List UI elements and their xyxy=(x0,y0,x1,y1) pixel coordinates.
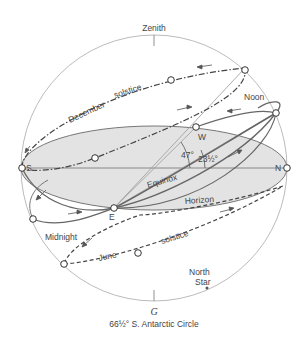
north-star-label-line1: North xyxy=(189,267,210,277)
december-noon-marker xyxy=(242,67,249,74)
south-label: S xyxy=(26,163,32,173)
june-midnight-marker xyxy=(61,261,68,268)
equinox-noon-marker xyxy=(273,110,280,117)
east-label: E xyxy=(109,212,115,222)
december-label: December xyxy=(67,99,107,125)
zenith-label: Zenith xyxy=(142,23,166,33)
noon-label: Noon xyxy=(244,92,265,102)
west-label: W xyxy=(198,132,206,142)
angle-47-label: 47° xyxy=(181,150,194,160)
december-mid-marker xyxy=(168,77,175,84)
celestial-sphere-diagram: Zenith Noon Midnight S N E W Equinox Hor… xyxy=(0,0,305,348)
figure-letter: G xyxy=(150,306,157,317)
west-point-marker xyxy=(193,124,200,131)
equinox-midnight-marker xyxy=(30,216,37,223)
december-low-marker xyxy=(92,155,99,162)
figure-caption: 66½° S. Antarctic Circle xyxy=(109,319,199,329)
june-label: June xyxy=(97,249,117,263)
north-point-marker xyxy=(284,165,291,172)
south-point-marker xyxy=(19,165,26,172)
december-solstice-label: solstice xyxy=(113,82,143,100)
june-solstice-label: solstice xyxy=(160,228,190,246)
midnight-label: Midnight xyxy=(45,232,78,242)
june-mid-marker xyxy=(135,250,142,257)
east-point-marker xyxy=(111,205,118,212)
angle-23-label: 23½° xyxy=(198,154,218,164)
horizon-label: Horizon xyxy=(184,194,214,206)
north-star-label-line2: Star xyxy=(195,277,211,287)
north-label: N xyxy=(275,163,281,173)
